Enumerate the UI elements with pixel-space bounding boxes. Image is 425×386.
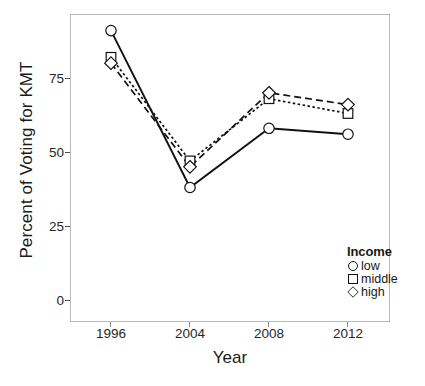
series-high-line	[111, 63, 348, 167]
legend: Income low middle high	[347, 244, 425, 299]
plot-panel: Income low middle high	[70, 14, 390, 322]
y-tick-label-25: 25	[38, 219, 64, 234]
plot-area	[71, 15, 389, 321]
legend-item-high: high	[347, 286, 425, 299]
x-tick-label-2012: 2012	[318, 326, 378, 341]
chart-figure: Percent of Voting for KMT 75 50 25 0	[0, 0, 425, 386]
series-high-markers	[105, 57, 355, 173]
x-tick-label-2008: 2008	[239, 326, 299, 341]
y-axis-title: Percent of Voting for KMT	[16, 10, 38, 310]
square-marker-icon	[347, 273, 360, 286]
circle-marker-icon	[347, 260, 360, 273]
y-tick-25: 25	[34, 219, 64, 233]
series-low-markers	[106, 25, 353, 192]
y-tick-50: 50	[34, 145, 64, 159]
y-tick-label-75: 75	[38, 71, 64, 86]
legend-item-middle: middle	[347, 273, 425, 286]
y-tick-label-50: 50	[38, 145, 64, 160]
x-tick-label-1996: 1996	[81, 326, 141, 341]
legend-title: Income	[347, 244, 425, 259]
legend-label-high: high	[361, 286, 385, 299]
diamond-marker-icon	[347, 286, 360, 299]
series-middle-markers	[106, 53, 353, 166]
x-axis-title: Year	[70, 348, 390, 368]
x-tick-label-2004: 2004	[160, 326, 220, 341]
y-tick-label-0: 0	[38, 293, 64, 308]
y-tick-75: 75	[34, 71, 64, 85]
y-tick-0: 0	[34, 293, 64, 307]
